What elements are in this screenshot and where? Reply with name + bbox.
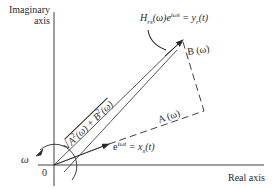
phasor-diagram-canvas [0, 0, 276, 189]
output-vector-label: Hrs(ω)eiωt = yr(t) [140, 12, 208, 23]
input-label-tail: (t) [145, 141, 154, 152]
output-label-tail: (t) [199, 12, 208, 23]
origin-label: 0 [42, 167, 47, 178]
output-label-h-mid: (ω)e [153, 12, 171, 23]
input-label-rest: = x [126, 141, 142, 152]
rotation-arrow-icon [36, 149, 43, 156]
output-vector-line-lower [64, 50, 177, 172]
input-vector-label: eiωt = xs(t) [113, 141, 155, 152]
output-label-h-exp: iωt [171, 11, 180, 19]
real-axis-label: Real axis [228, 172, 265, 183]
imaginary-axis-label: Imaginary axis [6, 4, 50, 26]
input-vector-arrow [54, 144, 109, 165]
output-label-eq: = y [180, 12, 196, 23]
imaginary-axis-label-line2: axis [6, 15, 50, 26]
output-label-pointer [148, 30, 166, 50]
input-label-exp: iωt [117, 140, 126, 148]
rotation-omega-label: ω [21, 154, 29, 165]
imaginary-axis-label-line1: Imaginary [6, 4, 50, 15]
